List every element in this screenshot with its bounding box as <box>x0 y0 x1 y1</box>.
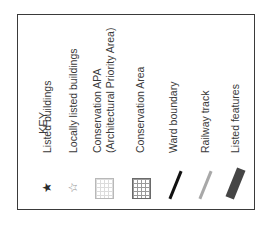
label-ward-boundary: Ward boundary <box>167 82 179 153</box>
dark-grid-icon <box>132 178 151 199</box>
light-grid-icon <box>95 178 114 199</box>
star-filled-icon: ★ <box>41 181 53 193</box>
label-listed-buildings: Listed buildings <box>41 81 53 153</box>
star-outline-icon: ☆ <box>67 181 79 193</box>
label-conservation-area: Conservation Area <box>134 67 146 153</box>
label-conservation-apa-subtitle: (Architectural Priority Area) <box>104 28 116 153</box>
label-locally-listed-buildings: Locally listed buildings <box>67 49 79 153</box>
label-railway-track: Railway track <box>199 91 211 153</box>
label-conservation-apa: Conservation APA <box>91 69 103 153</box>
label-listed-features: Listed features <box>229 84 241 153</box>
